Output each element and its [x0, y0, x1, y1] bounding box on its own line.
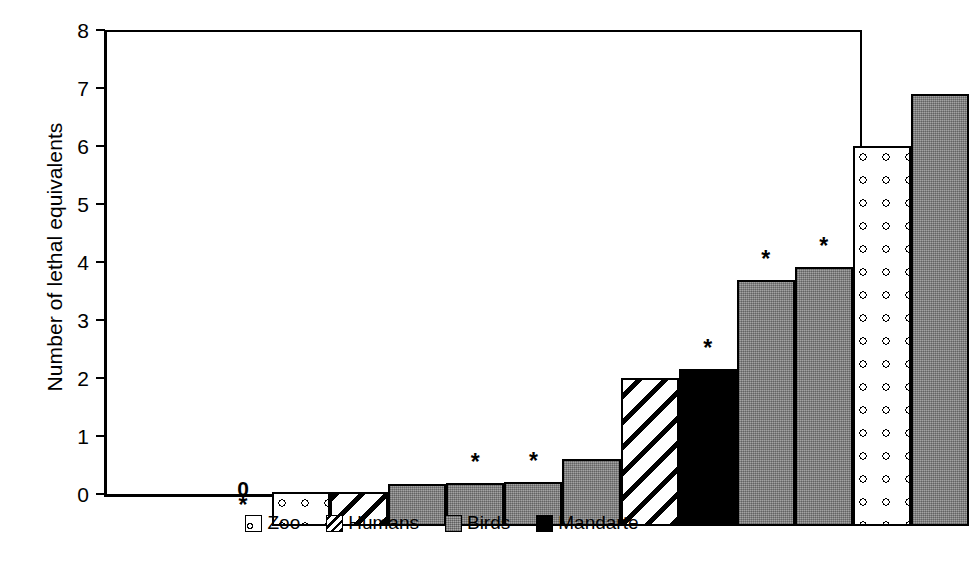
y-axis-tick-label: 4: [49, 252, 89, 273]
y-axis-tick-label: 0: [49, 484, 89, 505]
gray-fill-swatch: [445, 515, 462, 532]
bars-container: 0******: [214, 62, 969, 526]
bar-8-humans: [621, 378, 679, 526]
bar-9-mandarte: [679, 369, 737, 526]
bar-11-birds: [795, 267, 853, 526]
diagonal-hatch-swatch: [326, 515, 343, 532]
plot-area: 0******: [104, 30, 862, 497]
black-fill-swatch: [536, 515, 553, 532]
legend-item-birds: Birds: [445, 512, 510, 534]
bar-12-zoo: [853, 146, 911, 526]
legend-item-humans: Humans: [326, 512, 419, 534]
y-axis-tick-label: 2: [49, 368, 89, 389]
legend-item-mandarte: Mandarte: [536, 512, 638, 534]
bar-10-birds: [737, 280, 795, 527]
significance-asterisk: *: [471, 451, 480, 474]
significance-asterisk: *: [703, 337, 712, 360]
y-axis-tick-label: 6: [49, 136, 89, 157]
y-axis-tick-label: 8: [49, 20, 89, 41]
bar-13-birds: [911, 94, 969, 526]
y-axis-tick-label: 5: [49, 194, 89, 215]
legend-label: Zoo: [267, 512, 300, 534]
significance-asterisk: *: [529, 450, 538, 473]
white-with-circles-swatch: [245, 515, 262, 532]
y-axis-tick-label: 1: [49, 426, 89, 447]
y-axis-tick-label: 3: [49, 310, 89, 331]
legend-label: Birds: [467, 512, 510, 534]
legend-item-zoo: Zoo: [245, 512, 300, 534]
significance-asterisk: *: [819, 235, 828, 258]
y-axis-tick-label: 7: [49, 78, 89, 99]
legend-label: Mandarte: [558, 512, 638, 534]
chart-legend: ZooHumansBirdsMandarte: [0, 512, 884, 534]
legend-label: Humans: [348, 512, 419, 534]
significance-asterisk: *: [761, 248, 770, 271]
